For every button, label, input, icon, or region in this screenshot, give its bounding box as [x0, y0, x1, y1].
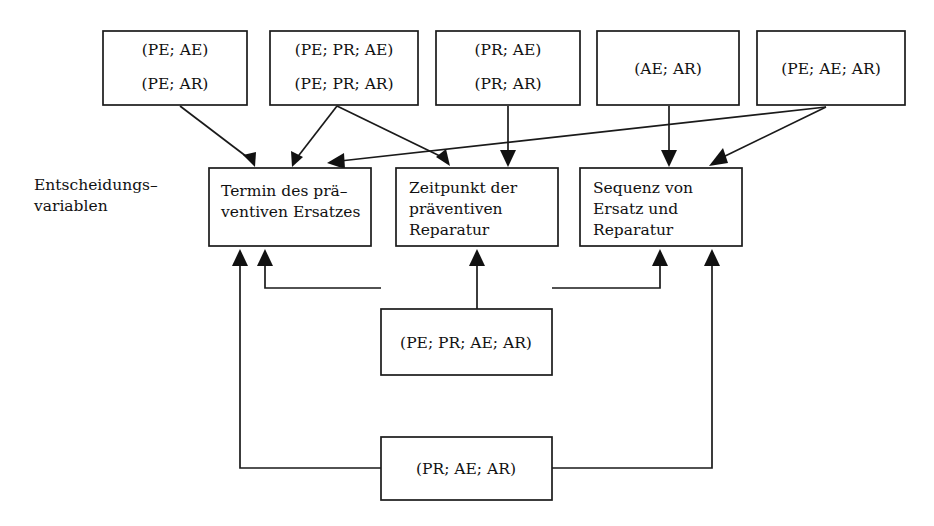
arrowhead-bb1-db3: [652, 249, 668, 266]
top-box-2[interactable]: (PE; PR; AE) (PE; PR; AR): [270, 31, 418, 105]
top-box-3-line2: (PR; AR): [474, 75, 541, 93]
bottom-box-1[interactable]: (PE; PR; AE; AR): [381, 309, 552, 375]
decision-box-row: Termin des prä– ventiven Ersatzes Zeitpu…: [209, 168, 742, 246]
arrowhead-bb2-db3: [704, 249, 720, 266]
edge-tb2-db2: [337, 106, 444, 158]
decision-variables-label: Entscheidungs– variablen: [33, 176, 158, 215]
top-box-2-line1: (PE; PR; AE): [295, 41, 394, 59]
edge-bb1-db1: [265, 263, 381, 288]
edge-bb2-db3: [552, 263, 712, 468]
top-box-1-line2: (PE; AR): [142, 75, 209, 93]
edge-tb1-db1: [180, 106, 251, 160]
arrowhead-tb3-db2: [500, 150, 516, 167]
decision-box-sequenz-line2: Ersatz und: [593, 200, 678, 218]
arrowhead-tb4-db3: [661, 150, 677, 167]
diagram-canvas: Entscheidungs– variablen (PE; AE) (PE; A…: [0, 0, 934, 526]
decision-box-zeitpunkt-line3: Reparatur: [409, 221, 490, 239]
top-box-3[interactable]: (PR; AE) (PR; AR): [436, 31, 580, 105]
decision-box-sequenz[interactable]: Sequenz von Ersatz und Reparatur: [580, 168, 742, 246]
flowchart-svg: Entscheidungs– variablen (PE; AE) (PE; A…: [0, 0, 934, 526]
decision-box-termin-line1: Termin des prä–: [221, 182, 348, 200]
bottom-box-1-label: (PE; PR; AE; AR): [400, 334, 532, 352]
top-box-4[interactable]: (AE; AR): [597, 31, 739, 105]
bottom-box-group: (PE; PR; AE; AR) (PR; AE; AR): [381, 309, 552, 500]
side-label-line2: variablen: [33, 197, 108, 215]
decision-box-termin-line2: ventiven Ersatzes: [220, 203, 360, 221]
decision-box-termin[interactable]: Termin des prä– ventiven Ersatzes: [209, 168, 371, 246]
edge-bb2-db1: [240, 263, 381, 468]
side-label-line1: Entscheidungs–: [34, 176, 158, 194]
decision-box-zeitpunkt-line2: präventiven: [409, 200, 503, 218]
decision-box-sequenz-line3: Reparatur: [593, 221, 674, 239]
top-box-row: (PE; AE) (PE; AR) (PE; PR; AE) (PE; PR; …: [103, 31, 905, 105]
bottom-box-2-label: (PR; AE; AR): [416, 460, 516, 478]
top-box-5[interactable]: (PE; AE; AR): [757, 31, 905, 105]
top-box-2-line2: (PE; PR; AR): [294, 75, 393, 93]
arrowhead-tb1-db1: [243, 152, 256, 167]
arrowhead-bb1-db2: [469, 249, 485, 266]
arrowhead-tb5-db3: [709, 148, 728, 166]
arrowhead-tb2-db2: [436, 149, 450, 166]
top-box-1-line1: (PE; AE): [142, 41, 209, 59]
top-box-1[interactable]: (PE; AE) (PE; AR): [103, 31, 247, 105]
edge-tb5-db1: [340, 107, 826, 161]
edge-layer: [180, 106, 826, 468]
decision-box-zeitpunkt[interactable]: Zeitpunkt der präventiven Reparatur: [396, 168, 558, 246]
arrowhead-bb2-db1: [232, 249, 248, 266]
top-box-4-line1: (AE; AR): [634, 60, 702, 78]
top-box-3-line1: (PR; AE): [475, 41, 542, 59]
edge-tb2-db1: [296, 106, 337, 159]
arrowhead-tb5-db1: [327, 153, 345, 169]
decision-box-zeitpunkt-line1: Zeitpunkt der: [409, 179, 518, 197]
bottom-box-2[interactable]: (PR; AE; AR): [381, 437, 552, 500]
edge-tb5-db3: [719, 107, 826, 159]
arrowhead-bb1-db1: [257, 249, 273, 266]
edge-bb1-db3: [552, 263, 660, 288]
decision-box-sequenz-line1: Sequenz von: [593, 179, 693, 197]
top-box-5-line1: (PE; AE; AR): [781, 60, 881, 78]
